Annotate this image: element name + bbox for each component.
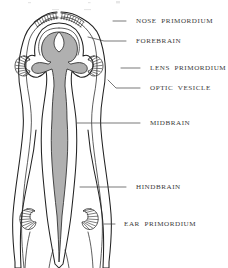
lens-primordium-hatching-right (88, 56, 102, 75)
ear-primordium-right (82, 209, 98, 230)
label-forebrain: FOREBRAIN (136, 37, 181, 45)
embryo-brain-figure: NOSE PRIMORDIUM FOREBRAIN LENS PRIMORDIU… (0, 0, 228, 268)
embryo-drawing (13, 12, 112, 268)
tail-stroke-left (49, 250, 53, 268)
flank-stroke-right (88, 232, 93, 268)
lens-primordium-left (15, 56, 30, 76)
flank-stroke-left (25, 232, 30, 268)
label-nose-primordium: NOSE PRIMORDIUM (136, 17, 213, 25)
diagram-canvas: NOSE PRIMORDIUM FOREBRAIN LENS PRIMORDIU… (0, 0, 228, 268)
scan-artifacts (28, 1, 120, 10)
tail-stroke-right (65, 250, 69, 268)
neural-tube-gray (32, 32, 88, 262)
label-ear-primordium: EAR PRIMORDIUM (124, 220, 196, 228)
label-optic-vesicle: OPTIC VESICLE (150, 84, 211, 92)
label-midbrain: MIDBRAIN (150, 119, 190, 127)
ear-primordium-left (20, 209, 36, 230)
label-lens-primordium: LENS PRIMORDIUM (150, 64, 226, 72)
lens-primordium-right (88, 56, 103, 76)
leader-optic-vesicle (108, 80, 140, 88)
label-texts: NOSE PRIMORDIUM FOREBRAIN LENS PRIMORDIU… (124, 17, 226, 228)
label-hindbrain: HINDBRAIN (136, 183, 181, 191)
lens-primordium-hatching-left (16, 56, 30, 75)
